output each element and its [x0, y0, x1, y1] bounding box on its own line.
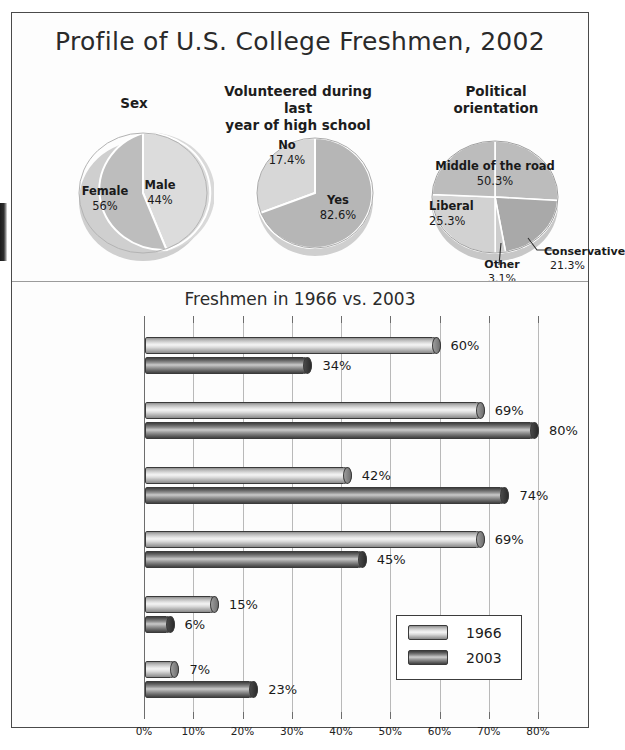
bar-value-label: 42% [362, 468, 391, 483]
x-axis-tick-top [390, 316, 391, 323]
x-axis-label: 40% [321, 725, 361, 737]
bar-1966-0 [145, 337, 441, 354]
x-axis-label: 20% [223, 725, 263, 737]
bar-value-label: 7% [189, 662, 210, 677]
x-axis-tick [144, 712, 145, 719]
legend-swatch-2003 [408, 650, 448, 665]
gridline [193, 323, 194, 712]
legend-swatch-1966 [408, 625, 448, 640]
bar-value-label: 15% [229, 597, 258, 612]
poster-frame: Profile of U.S. College Freshmen, 2002 S… [11, 12, 589, 728]
x-axis-tick [341, 712, 342, 719]
y-axis-line [144, 323, 145, 712]
bar-1966-1 [145, 402, 485, 419]
bar-2003-0 [145, 357, 312, 374]
x-axis-tick-top [538, 316, 539, 323]
chart-legend: 1966 2003 [396, 615, 522, 680]
pie-heading-political: Political orientation [426, 83, 566, 117]
x-axis-label: 70% [469, 725, 509, 737]
bar-end-cap [210, 596, 219, 613]
gridline [390, 323, 391, 712]
x-axis-tick [489, 712, 490, 719]
x-axis-tick-top [292, 316, 293, 323]
bar-value-label: 23% [268, 682, 297, 697]
bar-value-label: 69% [495, 532, 524, 547]
bar-chart-title: Freshmen in 1966 vs. 2003 [12, 289, 588, 309]
bar-value-label: 6% [185, 617, 206, 632]
x-axis-label: 0% [124, 725, 164, 737]
pie-heading-sex: Sex [64, 95, 204, 112]
bar-2003-3 [145, 551, 367, 568]
bar-value-label: 80% [549, 423, 578, 438]
bar-end-cap [476, 531, 485, 548]
x-axis-tick [193, 712, 194, 719]
bar-1966-5 [145, 661, 179, 678]
x-axis-tick [538, 712, 539, 719]
x-axis-label: 50% [370, 725, 410, 737]
bar-end-cap [358, 551, 367, 568]
x-axis-tick-top [144, 316, 145, 323]
x-axis-label: 80% [518, 725, 558, 737]
bar-2003-2 [145, 487, 509, 504]
bar-end-cap [170, 661, 179, 678]
bar-2003-1 [145, 422, 539, 439]
x-axis-tick [243, 712, 244, 719]
legend-label-2003: 2003 [466, 650, 502, 666]
gridline [243, 323, 244, 712]
x-axis-label: 30% [272, 725, 312, 737]
pie-heading-political-line1: Political [426, 83, 566, 100]
x-axis-tick-top [341, 316, 342, 323]
x-axis-tick [390, 712, 391, 719]
x-axis-tick-top [489, 316, 490, 323]
bar-value-label: 60% [451, 338, 480, 353]
pie-chart-sex [74, 125, 214, 267]
scan-edge-artifact [0, 203, 7, 261]
x-axis-tick [292, 712, 293, 719]
bar-value-label: 74% [519, 488, 548, 503]
bar-1966-4 [145, 596, 219, 613]
pie-heading-sex-text: Sex [120, 95, 148, 111]
bar-1966-3 [145, 531, 485, 548]
bar-end-cap [500, 487, 509, 504]
pie-heading-volunteered-line1: Volunteered during last [208, 83, 388, 117]
gridline [341, 323, 342, 712]
bar-end-cap [432, 337, 441, 354]
gridline [292, 323, 293, 712]
gridline [538, 323, 539, 712]
legend-label-1966: 1966 [466, 625, 502, 641]
section-divider [12, 281, 588, 282]
bar-end-cap [343, 467, 352, 484]
pie-heading-political-line2: orientation [426, 100, 566, 117]
x-axis-tick-top [440, 316, 441, 323]
bar-value-label: 34% [322, 358, 351, 373]
bar-value-label: 69% [495, 403, 524, 418]
pie-chart-volunteered [249, 125, 381, 265]
bar-end-cap [476, 402, 485, 419]
bar-2003-4 [145, 616, 175, 633]
bar-chart-plot-area: 0%10%20%30%40%50%60%70%80% Feel it's imp… [144, 323, 539, 712]
bar-end-cap [249, 681, 258, 698]
bar-2003-5 [145, 681, 258, 698]
x-axis-tick [440, 712, 441, 719]
x-axis-tick-top [193, 316, 194, 323]
page-title: Profile of U.S. College Freshmen, 2002 [12, 27, 588, 56]
bar-end-cap [166, 616, 175, 633]
bar-1966-2 [145, 467, 352, 484]
bar-value-label: 45% [377, 552, 406, 567]
pie-slice-label-conservative: Conservative 21.3% [544, 245, 625, 273]
x-axis-label: 60% [420, 725, 460, 737]
bar-end-cap [303, 357, 312, 374]
bar-end-cap [530, 422, 539, 439]
x-axis-label: 10% [173, 725, 213, 737]
x-axis-tick-top [243, 316, 244, 323]
